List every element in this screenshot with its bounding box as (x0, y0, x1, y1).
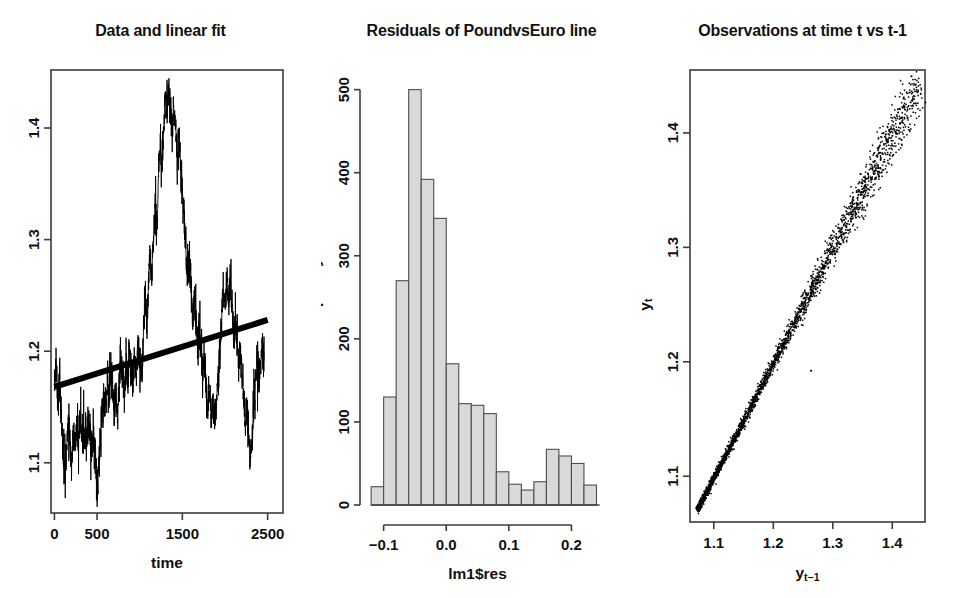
scatter-point (770, 372, 772, 374)
scatter-point (817, 283, 819, 285)
scatter-point (885, 134, 887, 136)
scatter-point (891, 114, 893, 116)
scatter-point (838, 241, 840, 243)
scatter-point (855, 213, 857, 215)
scatter-point (863, 176, 865, 178)
scatter-point (850, 196, 852, 198)
scatter-point (804, 290, 806, 292)
scatter-point (862, 207, 864, 209)
scatter-point (867, 173, 869, 175)
histogram-bar (371, 487, 384, 505)
scatter-point (811, 295, 813, 297)
scatter-point (909, 89, 911, 91)
scatter-point (850, 217, 852, 219)
scatter-point (861, 191, 863, 193)
scatter-point (765, 372, 767, 374)
scatter-point (914, 96, 916, 98)
scatter-point (709, 490, 711, 492)
scatter-point (895, 136, 897, 138)
scatter-point (890, 148, 892, 150)
scatter-point (750, 406, 752, 408)
scatter-point (898, 130, 900, 132)
scatter-point (704, 493, 706, 495)
scatter-point (864, 176, 866, 178)
scatter-point (906, 110, 908, 112)
y-tick-label: 1.3 (25, 229, 42, 250)
scatter-point (769, 374, 771, 376)
scatter-point (915, 112, 917, 114)
x-tick-label: 0 (50, 525, 58, 542)
scatter-point (877, 150, 879, 152)
scatter-point (744, 428, 746, 430)
scatter-point (867, 178, 869, 180)
scatter-point (841, 228, 843, 230)
scatter-point (813, 294, 815, 296)
scatter-point (865, 184, 867, 186)
scatter-point (711, 481, 713, 483)
scatter-point (873, 162, 875, 164)
scatter-point (744, 425, 746, 427)
scatter-point (705, 491, 707, 493)
scatter-point (775, 364, 777, 366)
scatter-point (870, 186, 872, 188)
scatter-point (883, 148, 885, 150)
scatter-point (703, 496, 705, 498)
scatter-point (864, 189, 866, 191)
panel-scatter: Observations at time t vs t-1 1.11.21.31… (642, 0, 963, 598)
scatter-point (861, 215, 863, 217)
y-tick-label: 300 (335, 243, 352, 268)
scatter-point (730, 437, 732, 439)
scatter-plot: 1.11.21.31.41.11.21.31.4ytyt−1 (642, 0, 963, 598)
scatter-point (789, 333, 791, 335)
scatter-point (908, 92, 910, 94)
scatter-point (745, 408, 747, 410)
scatter-point (914, 124, 916, 126)
scatter-point (907, 107, 909, 109)
scatter-point (861, 179, 863, 181)
scatter-point (721, 456, 723, 458)
scatter-point (812, 273, 814, 275)
scatter-point (744, 418, 746, 420)
scatter-point (883, 144, 885, 146)
scatter-point (810, 287, 812, 289)
scatter-point (839, 247, 841, 249)
scatter-point (900, 92, 902, 94)
scatter-point (895, 123, 897, 125)
scatter-point (698, 508, 700, 510)
scatter-point (827, 256, 829, 258)
scatter-point (915, 84, 917, 86)
scatter-point (838, 224, 840, 226)
x-axis-title: lm1$res (448, 565, 507, 582)
scatter-point (903, 127, 905, 129)
scatter-point (881, 133, 883, 135)
scatter-point (802, 314, 804, 316)
scatter-point (764, 375, 766, 377)
scatter-point (776, 350, 778, 352)
scatter-point (848, 233, 850, 235)
scatter-point (872, 154, 874, 156)
histogram-bar (559, 456, 572, 505)
histogram-bar (396, 281, 409, 505)
histogram-bar (446, 364, 459, 505)
scatter-point (752, 409, 754, 411)
scatter-point (817, 273, 819, 275)
scatter-point (717, 475, 719, 477)
scatter-point (767, 370, 769, 372)
scatter-point (903, 122, 905, 124)
scatter-point (799, 308, 801, 310)
scatter-point (896, 126, 898, 128)
scatter-point (852, 203, 854, 205)
scatter-point (805, 300, 807, 302)
scatter-point (765, 369, 767, 371)
scatter-point (801, 301, 803, 303)
scatter-point (925, 102, 927, 104)
x-tick-label: 1.4 (882, 534, 904, 551)
scatter-point (888, 137, 890, 139)
scatter-point (885, 143, 887, 145)
scatter-point (877, 166, 879, 168)
scatter-point (727, 453, 729, 455)
scatter-point (788, 340, 790, 342)
y-tick-label: 200 (335, 326, 352, 351)
scatter-point (828, 255, 830, 256)
scatter-point (863, 207, 865, 209)
